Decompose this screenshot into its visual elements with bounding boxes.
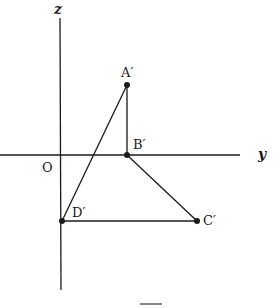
- point-b-label: B′: [133, 138, 146, 151]
- segment-b-c: [127, 155, 197, 221]
- figure-caption-fragment: [140, 303, 162, 305]
- z-axis-label: z: [54, 2, 62, 16]
- origin-label: O: [42, 161, 53, 174]
- y-axis-label: y: [258, 147, 266, 161]
- point-c: [194, 218, 200, 224]
- point-a-label: A′: [121, 66, 133, 79]
- point-c-label: C′: [203, 214, 216, 227]
- point-a: [124, 82, 130, 88]
- point-b: [124, 152, 130, 158]
- point-d-label: D′: [72, 206, 85, 219]
- z-axis: [60, 18, 61, 290]
- point-d: [59, 218, 65, 224]
- segment-d-a: [62, 85, 127, 221]
- diagram-canvas: [0, 0, 273, 308]
